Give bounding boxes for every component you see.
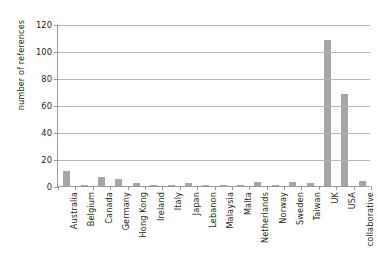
x-tick-mark (145, 186, 146, 190)
x-tick-mark (319, 186, 320, 190)
y-tick-label: 100 (36, 47, 52, 57)
bar (115, 179, 122, 186)
gridline (58, 25, 370, 26)
bar (63, 171, 70, 186)
x-axis-label: Sweden (295, 192, 305, 225)
x-tick-mark (336, 186, 337, 190)
y-tick-mark (54, 52, 58, 53)
x-axis-label: UK (330, 192, 340, 204)
x-tick-mark (232, 186, 233, 190)
bar (220, 185, 227, 186)
x-tick-mark (354, 186, 355, 190)
bar (307, 183, 314, 186)
x-tick-mark (162, 186, 163, 190)
x-axis-label: Taiwan (312, 192, 322, 220)
y-tick-label: 40 (41, 128, 52, 138)
y-tick-mark (54, 106, 58, 107)
bar (98, 177, 105, 186)
bar (185, 183, 192, 186)
y-tick-label: 20 (41, 155, 52, 165)
bar (359, 181, 366, 186)
x-axis-label: Canada (104, 192, 114, 224)
plot-area: 020406080100120 (57, 25, 370, 187)
y-tick-label: 0 (47, 182, 52, 192)
x-axis-labels: AustraliaBelgiumCanadaGermanyHong KongIr… (57, 192, 370, 266)
x-axis-label: Malta (243, 192, 253, 215)
bar (150, 185, 157, 186)
y-tick-mark (54, 79, 58, 80)
x-axis-label: Netherlands (260, 192, 270, 243)
x-axis-label: Belgium (86, 192, 96, 226)
gridline (58, 106, 370, 107)
x-tick-mark (284, 186, 285, 190)
bar (272, 185, 279, 186)
x-axis-label: Hong Kong (138, 192, 148, 237)
gridline (58, 52, 370, 53)
x-axis-label: Ireland (156, 192, 166, 221)
y-tick-mark (54, 25, 58, 26)
x-tick-mark (197, 186, 198, 190)
x-axis-label: Norway (278, 192, 288, 224)
bar (324, 40, 331, 186)
y-axis-title: number of references (16, 0, 26, 130)
x-axis-label: Malaysia (225, 192, 235, 229)
x-tick-mark (249, 186, 250, 190)
x-axis-label: Italy (173, 192, 183, 210)
gridline (58, 79, 370, 80)
x-tick-mark (110, 186, 111, 190)
bar (168, 185, 175, 186)
x-tick-mark (267, 186, 268, 190)
y-tick-label: 80 (41, 74, 52, 84)
bar (254, 182, 261, 186)
x-axis-label: collaborative (365, 192, 375, 246)
x-axis-label: USA (347, 192, 357, 209)
x-tick-mark (128, 186, 129, 190)
y-tick-mark (54, 133, 58, 134)
gridline (58, 133, 370, 134)
gridline (58, 160, 370, 161)
x-axis-label: Germany (121, 192, 131, 230)
x-axis-label: Japan (191, 192, 201, 215)
bar (202, 185, 209, 186)
bar-chart: number of references 020406080100120 Aus… (0, 0, 378, 266)
y-tick-label: 120 (36, 20, 52, 30)
x-tick-mark (75, 186, 76, 190)
y-tick-label: 60 (41, 101, 52, 111)
bar (237, 185, 244, 186)
x-tick-mark (93, 186, 94, 190)
x-tick-mark (58, 186, 59, 190)
bar (81, 185, 88, 186)
bar (133, 183, 140, 186)
x-tick-mark (215, 186, 216, 190)
x-axis-label: Australia (69, 192, 79, 229)
bar (341, 94, 348, 186)
x-axis-label: Lebanon (208, 192, 218, 228)
x-tick-mark (371, 186, 372, 190)
y-tick-mark (54, 160, 58, 161)
bar (289, 182, 296, 186)
x-tick-mark (180, 186, 181, 190)
x-tick-mark (301, 186, 302, 190)
